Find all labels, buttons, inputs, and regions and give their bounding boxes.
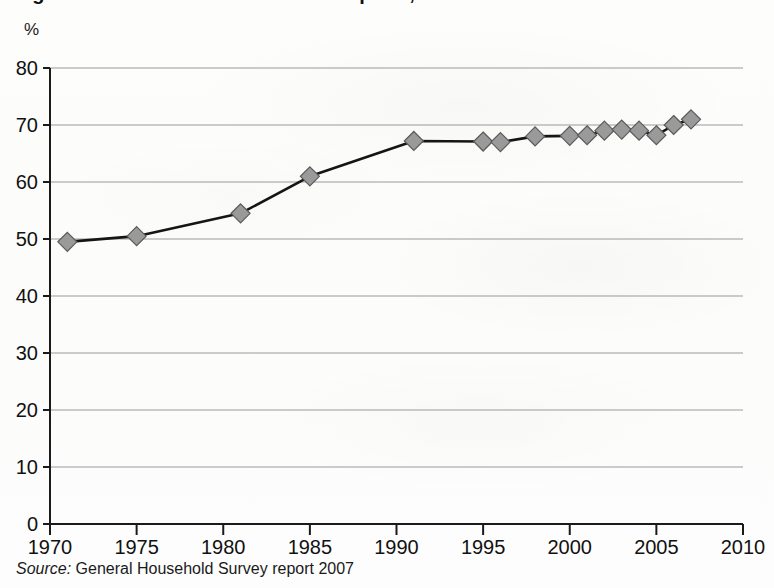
source-text: General Household Survey report 2007 bbox=[76, 560, 354, 577]
y-tick-label: 70 bbox=[2, 115, 38, 135]
y-tick-label: 30 bbox=[2, 343, 38, 363]
y-axis-ticks bbox=[43, 68, 50, 524]
x-tick-label: 2010 bbox=[708, 537, 774, 557]
y-tick-label: 20 bbox=[2, 400, 38, 420]
y-tick-label: 0 bbox=[2, 514, 38, 534]
plot-canvas bbox=[0, 0, 774, 560]
x-tick-label: 1975 bbox=[102, 537, 172, 557]
source-label: Source: bbox=[16, 560, 71, 577]
line-chart: % 80706050403020100 19701975198019851990… bbox=[0, 0, 774, 560]
data-point-markers bbox=[58, 110, 701, 252]
x-tick-label: 1970 bbox=[15, 537, 85, 557]
x-tick-label: 1980 bbox=[188, 537, 258, 557]
x-tick-label: 1995 bbox=[448, 537, 518, 557]
x-tick-label: 1985 bbox=[275, 537, 345, 557]
y-tick-label: 60 bbox=[2, 172, 38, 192]
y-tick-label: 40 bbox=[2, 286, 38, 306]
x-axis-ticks bbox=[50, 524, 743, 535]
source-note: Source: General Household Survey report … bbox=[16, 560, 354, 578]
y-tick-label: 80 bbox=[2, 58, 38, 78]
y-tick-label: 10 bbox=[2, 457, 38, 477]
x-tick-label: 2005 bbox=[621, 537, 691, 557]
x-tick-label: 2000 bbox=[535, 537, 605, 557]
data-series-line bbox=[67, 119, 691, 242]
x-tick-label: 1990 bbox=[362, 537, 432, 557]
y-tick-label: 50 bbox=[2, 229, 38, 249]
